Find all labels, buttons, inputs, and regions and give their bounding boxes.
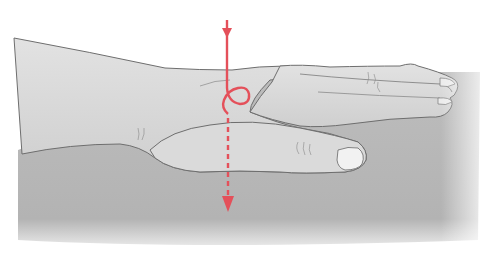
edge-fade <box>0 0 490 257</box>
hand-illustration <box>0 0 490 257</box>
illustration <box>0 0 490 257</box>
